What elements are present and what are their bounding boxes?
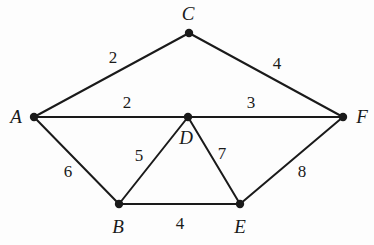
graph-node-b	[115, 200, 123, 208]
edge-weight-b-e: 4	[176, 215, 185, 232]
node-label-f: F	[356, 107, 368, 126]
graph-node-c	[185, 29, 193, 37]
graph-node-f	[339, 113, 347, 121]
graph-node-d	[184, 113, 192, 121]
edge-weight-a-c: 2	[109, 49, 118, 66]
graph-edge-b-d	[119, 117, 188, 204]
graph-edge-a-b	[34, 117, 119, 204]
graph-edge-e-f	[240, 117, 343, 204]
graph-canvas	[0, 0, 374, 245]
edge-weight-e-f: 8	[298, 163, 307, 180]
graph-figure: ABCDEF242365784	[0, 0, 374, 245]
graph-edge-d-e	[188, 117, 240, 204]
graph-edge-c-f	[189, 33, 343, 117]
graph-node-a	[30, 113, 38, 121]
edge-weight-d-f: 3	[247, 94, 256, 111]
node-label-c: C	[182, 4, 195, 23]
edge-weight-b-d: 5	[135, 147, 144, 164]
node-layer	[30, 29, 347, 208]
node-label-d: D	[179, 128, 193, 147]
graph-edge-a-c	[34, 33, 189, 117]
edge-weight-a-d: 2	[123, 94, 132, 111]
edge-weight-d-e: 7	[218, 145, 227, 162]
node-label-a: A	[10, 107, 22, 126]
edge-weight-c-f: 4	[273, 55, 282, 72]
node-label-b: B	[112, 217, 124, 236]
graph-node-e	[236, 200, 244, 208]
edge-weight-a-b: 6	[64, 163, 73, 180]
node-label-e: E	[234, 217, 246, 236]
